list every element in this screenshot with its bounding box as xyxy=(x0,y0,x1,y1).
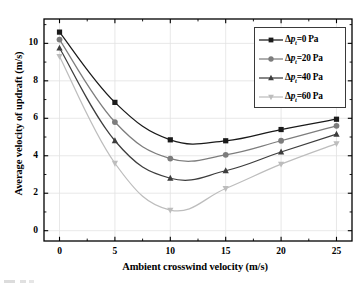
legend-label-3: Δpt=60 Pa xyxy=(285,91,323,103)
legend-marker-triangle-down xyxy=(258,90,284,104)
y-tick-0: 0 xyxy=(10,225,38,235)
y-tick-6: 6 xyxy=(10,112,38,122)
legend-marker-circle xyxy=(258,52,284,66)
marker-circle xyxy=(112,119,118,125)
legend: Δpt=0 PaΔpt=20 PaΔpt=40 PaΔpt=60 Pa xyxy=(254,27,346,108)
y-tick-2: 2 xyxy=(10,187,38,197)
marker-square xyxy=(334,117,339,122)
x-tick-25: 25 xyxy=(320,246,352,256)
updraft-velocity-chart: Average velocity of updraft (m/s) Ambien… xyxy=(0,0,362,289)
legend-item-2[interactable]: Δpt=40 Pa xyxy=(258,69,344,88)
legend-item-0[interactable]: Δpt=0 Pa xyxy=(258,30,344,49)
legend-marker-square xyxy=(258,33,284,47)
marker-square xyxy=(168,137,173,142)
x-tick-0: 0 xyxy=(44,246,76,256)
marker-circle xyxy=(334,123,340,129)
legend-item-1[interactable]: Δpt=20 Pa xyxy=(258,49,344,68)
y-tick-8: 8 xyxy=(10,75,38,85)
x-tick-10: 10 xyxy=(154,246,186,256)
marker-circle xyxy=(167,156,173,162)
x-tick-15: 15 xyxy=(210,246,242,256)
marker-circle xyxy=(278,138,284,144)
legend-label-0: Δpt=0 Pa xyxy=(285,34,318,46)
marker-square xyxy=(57,30,62,35)
legend-label-2: Δpt=40 Pa xyxy=(285,72,323,84)
marker-square xyxy=(269,37,274,42)
x-axis-title: Ambient crosswind velocity (m/s) xyxy=(36,261,354,272)
marker-square xyxy=(112,100,117,105)
marker-square xyxy=(223,138,228,143)
y-tick-4: 4 xyxy=(10,150,38,160)
x-tick-20: 20 xyxy=(265,246,297,256)
marker-circle xyxy=(57,37,63,43)
legend-marker-triangle-up xyxy=(258,71,284,85)
y-tick-10: 10 xyxy=(10,37,38,47)
marker-circle xyxy=(268,56,273,61)
legend-label-1: Δpt=20 Pa xyxy=(285,53,323,65)
marker-square xyxy=(278,127,283,132)
legend-item-3[interactable]: Δpt=60 Pa xyxy=(258,88,344,107)
scan-artifact xyxy=(4,280,34,283)
marker-circle xyxy=(223,152,229,158)
x-tick-5: 5 xyxy=(99,246,131,256)
